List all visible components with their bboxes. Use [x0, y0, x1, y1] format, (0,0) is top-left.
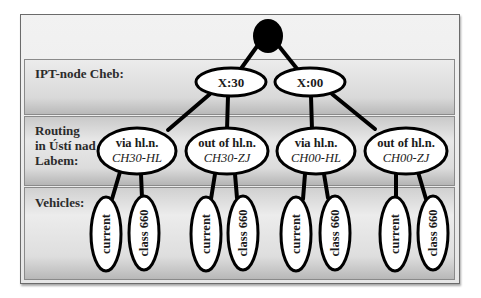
edge-x30-ch30hl: [168, 94, 210, 130]
vehicle-label: class 660: [328, 210, 342, 257]
tree-diagram: X:30 X:00 via hl.n. CH30-HL out of hl.n.…: [0, 0, 481, 298]
vehicle-node-ch00zj-current: current: [380, 197, 410, 271]
ipt-node-x30-label: X:30: [218, 75, 245, 90]
edge-x00-ch00zj: [332, 94, 375, 129]
routing-node-ch30-hl-line2: CH30-HL: [112, 151, 162, 165]
routing-node-ch00-zj-line2: CH00-ZJ: [383, 151, 431, 165]
routing-node-ch30-hl: via hl.n. CH30-HL: [98, 128, 176, 174]
vehicle-node-ch30hl-current: current: [91, 197, 121, 271]
vehicle-node-ch30hl-class660: class 660: [129, 196, 159, 270]
routing-node-ch00-zj-line1: out of hl.n.: [377, 136, 435, 150]
edge-x00-ch00hl: [311, 96, 312, 130]
edge-ch00hl-class660: [324, 174, 328, 198]
vehicle-node-ch00zj-class660: class 660: [418, 196, 448, 270]
edge-root-x00: [278, 45, 298, 70]
edge-ch00zj-class660: [418, 172, 426, 199]
ipt-node-x30: X:30: [196, 68, 266, 96]
routing-node-ch30-hl-line1: via hl.n.: [116, 136, 159, 150]
edges: [112, 45, 426, 199]
edge-root-x30: [240, 45, 258, 70]
routing-node-ch00-zj: out of hl.n. CH00-ZJ: [365, 128, 447, 174]
edge-x30-ch30zj: [227, 96, 228, 130]
vehicle-label: class 660: [236, 210, 250, 257]
vehicle-node-ch00hl-current: current: [281, 197, 311, 271]
edge-ch30hl-class660: [141, 174, 142, 198]
edge-ch30hl-current: [112, 172, 120, 199]
vehicle-label: current: [199, 213, 213, 254]
edge-ch30zj-class660: [235, 174, 237, 198]
vehicle-label: class 660: [426, 210, 440, 257]
root-node: [253, 19, 283, 53]
ipt-node-x00: X:00: [275, 68, 345, 96]
vehicle-label: current: [99, 213, 113, 254]
vehicle-node-ch30zj-current: current: [191, 197, 221, 271]
vehicle-label: class 660: [137, 210, 151, 257]
vehicle-node-ch30zj-class660: class 660: [228, 196, 258, 270]
vehicle-label: current: [388, 213, 402, 254]
routing-node-ch30-zj-line1: out of hl.n.: [198, 136, 256, 150]
routing-node-ch00-hl-line1: via hl.n.: [295, 136, 338, 150]
routing-node-ch30-zj-line2: CH30-ZJ: [204, 151, 252, 165]
edge-ch00hl-current: [303, 174, 305, 199]
vehicle-label: current: [289, 213, 303, 254]
routing-node-ch00-hl-line2: CH00-HL: [291, 151, 341, 165]
routing-node-ch30-zj: out of hl.n. CH30-ZJ: [186, 128, 268, 174]
edge-ch30zj-current: [211, 174, 215, 199]
routing-node-ch00-hl: via hl.n. CH00-HL: [277, 128, 355, 174]
vehicle-node-ch00hl-class660: class 660: [320, 196, 350, 270]
ipt-node-x00-label: X:00: [297, 75, 324, 90]
